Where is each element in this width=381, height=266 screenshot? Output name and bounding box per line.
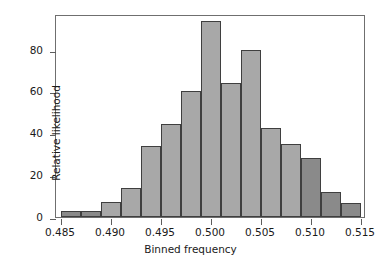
y-axis-tick [50, 52, 56, 53]
histogram-bar [161, 124, 181, 217]
y-axis-tick-label: 80 [9, 44, 43, 56]
x-axis-tick [161, 219, 162, 225]
y-axis-tick-label: 60 [9, 85, 43, 97]
x-axis-tick [111, 219, 112, 225]
histogram-bar [241, 50, 261, 217]
x-axis-tick [311, 219, 312, 225]
x-axis-tick [261, 219, 262, 225]
x-axis-tick [211, 219, 212, 225]
plot-area [55, 15, 365, 218]
histogram-bar [121, 188, 141, 217]
histogram-figure: 020406080 0.4850.4900.4950.5000.5050.510… [0, 0, 381, 266]
histogram-bar [341, 203, 361, 217]
histogram-bar [201, 21, 221, 217]
histogram-bar [181, 91, 201, 217]
histogram-bar [301, 158, 321, 217]
histogram-bar [101, 202, 121, 217]
histogram-bar [221, 83, 241, 217]
x-axis-title: Binned frequency [0, 243, 381, 255]
histogram-bar [81, 211, 101, 217]
y-axis-tick-label: 40 [9, 127, 43, 139]
histogram-bar [141, 146, 161, 217]
y-axis-tick-label: 0 [9, 211, 43, 223]
histogram-bar [281, 144, 301, 217]
x-axis-tick [361, 219, 362, 225]
x-axis-tick [61, 219, 62, 225]
x-axis-tick-label: 0.515 [330, 226, 381, 238]
bar-series [56, 16, 364, 217]
y-axis-title: Relative likelihood [50, 85, 62, 181]
histogram-bar [61, 211, 81, 217]
histogram-bar [321, 192, 341, 217]
histogram-bar [261, 128, 281, 217]
y-axis-tick [50, 219, 56, 220]
y-axis-tick-label: 20 [9, 169, 43, 181]
